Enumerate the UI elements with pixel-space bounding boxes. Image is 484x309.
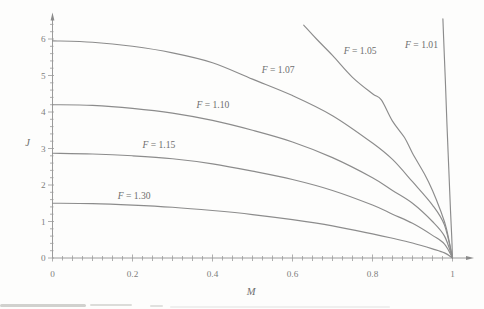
scanned-figure-page: 00.20.40.60.810123456F = 1.07F = 1.10F =… (0, 0, 484, 309)
x-axis-title: M (246, 286, 257, 297)
curve-1.07 (53, 41, 453, 258)
curve-label: F = 1.15 (141, 139, 175, 150)
x-tick-label: 0.4 (207, 269, 219, 279)
y-axis-title: J (25, 137, 31, 148)
y-axis-arrow-icon (51, 13, 55, 21)
y-tick-label: 2 (41, 180, 46, 190)
curve-label: F = 1.01 (404, 39, 438, 50)
y-tick-label: 3 (41, 144, 46, 154)
scan-artifact (170, 306, 390, 308)
curve-1.05 (304, 25, 453, 258)
y-tick-label: 4 (41, 107, 46, 117)
x-tick-label: 0.8 (367, 269, 379, 279)
x-tick-label: 0.6 (287, 269, 299, 279)
x-tick-label: 1 (450, 269, 455, 279)
y-tick-label: 0 (41, 253, 46, 263)
curve-1.30 (53, 203, 453, 258)
y-tick-label: 1 (41, 217, 46, 227)
curve-label: F = 1.07 (261, 64, 295, 75)
y-tick-label: 6 (41, 34, 46, 44)
curve-label: F = 1.30 (117, 190, 151, 201)
y-tick-label: 5 (41, 71, 46, 81)
scan-artifact (90, 304, 132, 306)
curve-1.10 (53, 105, 453, 258)
curve-label: F = 1.10 (195, 99, 229, 110)
scan-artifact (0, 304, 86, 307)
x-axis-arrow-icon (466, 256, 474, 260)
j-vs-m-curve-chart: 00.20.40.60.810123456F = 1.07F = 1.10F =… (0, 0, 484, 309)
curve-1.15 (53, 153, 453, 258)
scan-artifact (150, 305, 163, 307)
x-tick-label: 0 (50, 269, 55, 279)
x-tick-label: 0.2 (127, 269, 139, 279)
curve-label: F = 1.05 (343, 45, 377, 56)
